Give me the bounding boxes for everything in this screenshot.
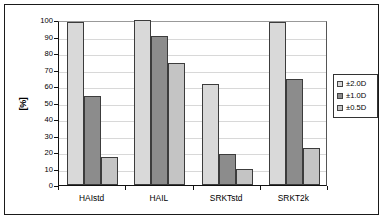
y-tick-label: 90 [31, 34, 53, 42]
x-category-label: SRKTstd [193, 193, 260, 203]
bar [168, 63, 185, 185]
legend-label: ±0.5D [346, 104, 366, 112]
bar-series-group [59, 22, 326, 185]
legend-swatch-icon [337, 93, 343, 99]
x-tick-mark [58, 186, 59, 190]
x-category-label: HAIstd [58, 193, 125, 203]
plot-area [58, 21, 327, 186]
bar [202, 84, 219, 185]
bar [151, 36, 168, 185]
chart-figure: [%] 0102030405060708090100 HAIstdHAILSRK… [0, 0, 385, 223]
bar [101, 157, 118, 185]
x-tick-mark [125, 186, 126, 190]
legend-label: ±2.0D [346, 80, 366, 88]
x-tick-mark [193, 186, 194, 190]
y-tick-label: 50 [31, 100, 53, 108]
bar [219, 154, 236, 185]
legend-item: ±1.0D [337, 90, 374, 102]
chart-legend: ±2.0D±1.0D±0.5D [333, 74, 378, 118]
bar [269, 22, 286, 185]
legend-item: ±2.0D [337, 78, 374, 90]
legend-label: ±1.0D [346, 92, 366, 100]
x-category-label: HAIL [125, 193, 192, 203]
bar [236, 169, 253, 185]
bar [286, 79, 303, 185]
y-tick-label: 20 [31, 149, 53, 157]
y-tick-label: 40 [31, 116, 53, 124]
legend-item: ±0.5D [337, 102, 374, 114]
y-tick-label: 30 [31, 133, 53, 141]
y-tick-label: 0 [31, 182, 53, 190]
bar [134, 20, 151, 185]
bar [84, 96, 101, 185]
bar [303, 148, 320, 185]
x-tick-mark [260, 186, 261, 190]
x-tick-mark [327, 186, 328, 190]
y-tick-label: 70 [31, 67, 53, 75]
y-tick-label: 10 [31, 166, 53, 174]
x-category-label: SRKT2k [260, 193, 327, 203]
bar [67, 22, 84, 185]
y-tick-label: 100 [31, 17, 53, 25]
legend-swatch-icon [337, 105, 343, 111]
y-tick-label: 60 [31, 83, 53, 91]
y-tick-label: 80 [31, 50, 53, 58]
legend-swatch-icon [337, 81, 343, 87]
